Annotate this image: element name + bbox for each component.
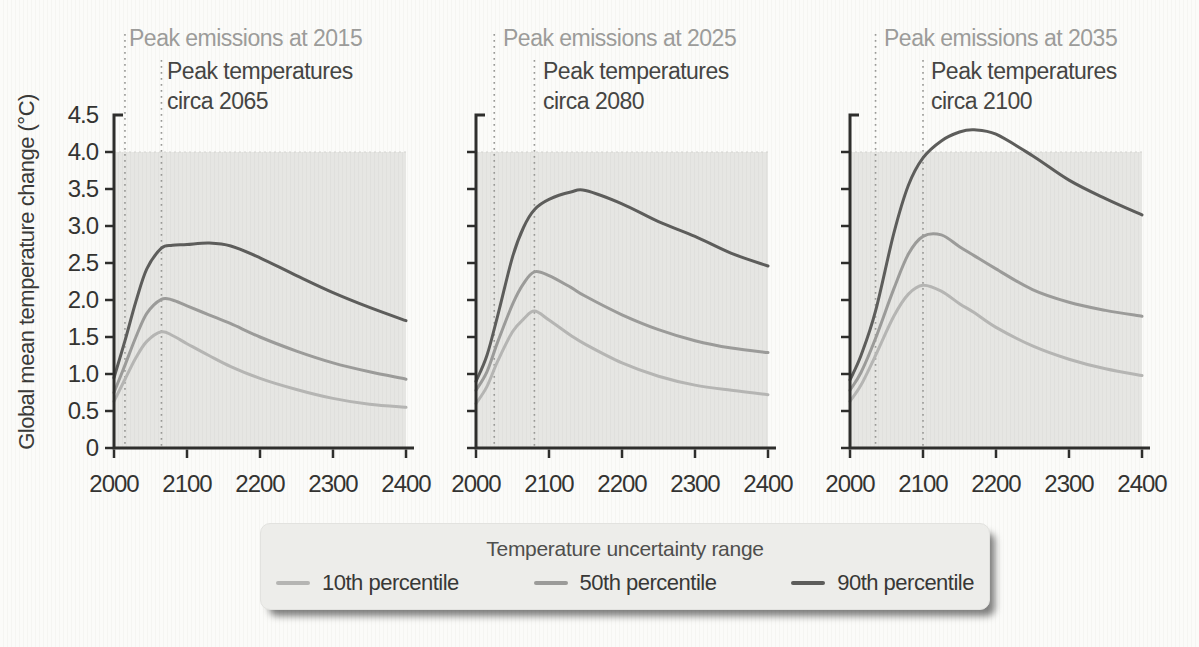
- svg-text:2000: 2000: [89, 470, 139, 497]
- svg-text:2.0: 2.0: [68, 286, 99, 313]
- svg-text:2100: 2100: [898, 470, 948, 497]
- svg-text:1.0: 1.0: [68, 360, 99, 387]
- svg-text:2000: 2000: [451, 470, 501, 497]
- svg-text:1.5: 1.5: [68, 323, 99, 350]
- svg-text:4.0: 4.0: [68, 138, 99, 165]
- svg-text:2300: 2300: [1044, 470, 1094, 497]
- legend-entry-90th-label: 90th percentile: [837, 570, 974, 596]
- svg-text:2400: 2400: [743, 470, 793, 497]
- legend-entries: 10th percentile 50th percentile 90th per…: [261, 570, 989, 596]
- svg-text:2300: 2300: [308, 470, 358, 497]
- panel-1-emissions-title: Peak emissions at 2015: [129, 25, 362, 52]
- svg-text:3.5: 3.5: [68, 175, 99, 202]
- legend-title: Temperature uncertainty range: [261, 537, 989, 561]
- panel-3-peak-title-line2: circa 2100: [931, 86, 1117, 116]
- panel-1-peak-title: Peak temperatures circa 2065: [167, 56, 353, 116]
- percentile-90-line-swatch-icon: [791, 581, 825, 585]
- legend-entry-10th: 10th percentile: [276, 570, 459, 596]
- legend-entry-10th-label: 10th percentile: [322, 570, 459, 596]
- svg-text:2200: 2200: [235, 470, 285, 497]
- panel-3-peak-title-line1: Peak temperatures: [931, 56, 1117, 86]
- svg-text:2100: 2100: [162, 470, 212, 497]
- svg-text:0.5: 0.5: [68, 397, 99, 424]
- svg-text:2400: 2400: [1117, 470, 1167, 497]
- svg-text:2000: 2000: [825, 470, 875, 497]
- svg-text:2100: 2100: [524, 470, 574, 497]
- svg-text:0: 0: [86, 434, 99, 461]
- svg-text:2.5: 2.5: [68, 249, 99, 276]
- panel-1-peak-title-line1: Peak temperatures: [167, 56, 353, 86]
- panel-2-peak-title-line1: Peak temperatures: [543, 56, 729, 86]
- panel-3-peak-title: Peak temperatures circa 2100: [931, 56, 1117, 116]
- panel-2-peak-title: Peak temperatures circa 2080: [543, 56, 729, 116]
- legend-entry-90th: 90th percentile: [791, 570, 974, 596]
- y-axis-label: Global mean temperature change (°C): [14, 47, 42, 497]
- percentile-10-line-swatch-icon: [276, 581, 310, 585]
- panel-2-peak-title-line2: circa 2080: [543, 86, 729, 116]
- svg-text:3.0: 3.0: [68, 212, 99, 239]
- panel-1-peak-title-line2: circa 2065: [167, 86, 353, 116]
- panel-2-emissions-title: Peak emissions at 2025: [503, 25, 736, 52]
- scanned-figure-page: 00.51.01.52.02.53.03.54.04.5200021002200…: [0, 0, 1199, 647]
- panel-3-emissions-title: Peak emissions at 2035: [884, 25, 1117, 52]
- svg-text:2200: 2200: [597, 470, 647, 497]
- percentile-50-line-swatch-icon: [534, 581, 568, 585]
- legend-entry-50th-label: 50th percentile: [580, 570, 717, 596]
- legend-entry-50th: 50th percentile: [534, 570, 717, 596]
- legend-box: Temperature uncertainty range 10th perce…: [260, 523, 990, 610]
- svg-text:4.5: 4.5: [68, 101, 99, 128]
- svg-text:2300: 2300: [670, 470, 720, 497]
- svg-text:2400: 2400: [381, 470, 431, 497]
- svg-text:2200: 2200: [971, 470, 1021, 497]
